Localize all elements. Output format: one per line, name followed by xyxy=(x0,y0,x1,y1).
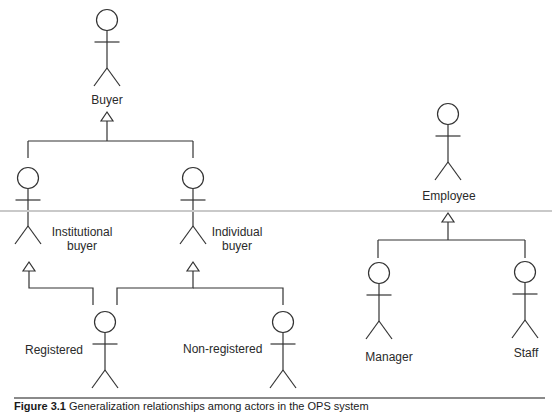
actor-staff-icon xyxy=(512,262,538,339)
label-non-registered: Non-registered xyxy=(183,342,262,356)
label-staff: Staff xyxy=(514,346,538,360)
scan-artifact-line xyxy=(0,210,552,212)
label-registered: Registered xyxy=(25,343,83,357)
label-buyer: Buyer xyxy=(91,93,122,107)
actor-buyer-icon xyxy=(94,10,120,87)
figure-caption: Figure 3.1 Generalization relationships … xyxy=(14,400,369,413)
caption-text: Generalization relationships among actor… xyxy=(66,400,369,412)
figure-number: Figure 3.1 xyxy=(14,400,66,412)
actor-employee-icon xyxy=(435,104,461,181)
generalization-arrow-individual xyxy=(187,262,199,271)
generalization-arrow-buyer xyxy=(101,112,113,121)
buyer-generalization-lines xyxy=(28,121,193,158)
label-manager: Manager xyxy=(365,350,412,364)
actor-manager-icon xyxy=(366,263,392,340)
caption-rule xyxy=(14,397,545,399)
actor-non-registered-icon xyxy=(270,312,296,389)
label-institutional-buyer: Institutional buyer xyxy=(50,225,114,253)
actor-individual-buyer-icon xyxy=(180,168,206,245)
label-employee: Employee xyxy=(422,189,475,203)
actor-institutional-buyer-icon xyxy=(15,168,41,245)
registered-generalization-lines xyxy=(29,271,283,305)
generalization-arrow-institutional xyxy=(23,262,35,271)
actor-registered-icon xyxy=(92,312,118,389)
label-individual-buyer: Individual buyer xyxy=(209,225,265,253)
generalization-arrow-employee xyxy=(442,213,454,222)
employee-generalization-lines xyxy=(378,222,525,258)
